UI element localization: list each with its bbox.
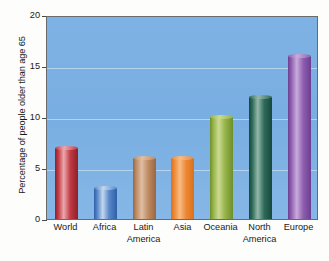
bar-cap [288, 54, 311, 58]
x-axis-label-line: World [54, 222, 78, 232]
x-axis-label-line: Africa [93, 222, 117, 232]
bar-cap [133, 156, 156, 160]
bar-oceania [210, 117, 233, 219]
y-axis-tick-label: 0 [16, 215, 40, 224]
x-axis-label-line: North [248, 222, 270, 232]
x-axis-label-line: Europe [284, 222, 314, 232]
y-axis-tick-label: 15 [16, 62, 40, 71]
x-axis-label-line: Latin [134, 222, 154, 232]
bar-europe [288, 56, 311, 219]
bar-cap [171, 156, 194, 160]
bar-cap [94, 186, 117, 190]
bar-africa [94, 188, 117, 219]
x-axis-label-europe: Europe [275, 222, 322, 234]
y-axis-tick-label: 20 [16, 11, 40, 20]
bar-cap [55, 146, 78, 150]
bar-asia [171, 158, 194, 219]
bar-latin-america [133, 158, 156, 219]
y-axis-tick-label: 10 [16, 113, 40, 122]
x-axis-label-line: America [120, 234, 167, 246]
gridline [47, 119, 317, 120]
y-axis-tick-label: 5 [16, 164, 40, 173]
x-axis-label-line: Oceania [203, 222, 237, 232]
x-axis-label-line: Asia [174, 222, 192, 232]
gridline [47, 68, 317, 69]
plot-area [46, 16, 318, 220]
chart-figure: Percentage of people older than age 65 0… [0, 0, 329, 261]
x-axis-labels: WorldAfricaLatinAmericaAsiaOceaniaNorthA… [46, 222, 318, 260]
x-axis-label-line: America [236, 234, 283, 246]
bar-north-america [249, 97, 272, 219]
bar-world [55, 148, 78, 219]
bar-cap [210, 115, 233, 119]
bar-cap [249, 95, 272, 99]
y-axis-tick [42, 220, 47, 221]
